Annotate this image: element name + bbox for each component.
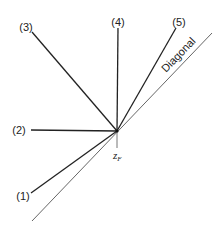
ray-label-2: (2) <box>12 124 25 136</box>
ray-2 <box>31 130 117 131</box>
ray-3 <box>32 32 117 131</box>
ray-4 <box>117 28 118 131</box>
diagonal-line <box>32 33 212 221</box>
ray-label-3: (3) <box>19 21 32 33</box>
ray-1 <box>31 131 117 193</box>
center-label: zF <box>112 149 122 163</box>
diagram: Diagonal (1) (2) (3) (4) (5) zF <box>0 0 223 229</box>
ray-label-5: (5) <box>172 16 185 28</box>
center-point <box>115 129 118 132</box>
ray-label-4: (4) <box>111 16 124 28</box>
ray-label-1: (1) <box>16 190 29 202</box>
center-label-subscript: F <box>116 155 122 163</box>
